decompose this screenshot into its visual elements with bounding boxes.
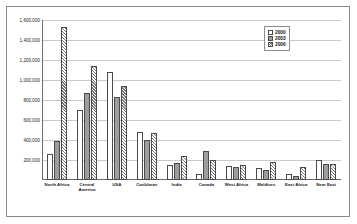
bar-group xyxy=(132,20,162,180)
bar-2003 xyxy=(84,93,90,180)
bar-2000 xyxy=(137,132,143,180)
x-axis-category-label: West Africa xyxy=(221,182,251,192)
bar-2003 xyxy=(54,141,60,180)
x-axis-category-label: Caribbean xyxy=(132,182,162,192)
legend-label-2003: 2003 xyxy=(275,36,286,41)
legend-swatch-2003-icon xyxy=(268,36,273,41)
bar-2000 xyxy=(256,168,262,180)
bar-2006 xyxy=(181,156,187,180)
x-axis-category-labels: North AfricaCentral AmericaUSACaribbeanI… xyxy=(42,182,341,192)
bar-group xyxy=(72,20,102,180)
bar-group xyxy=(192,20,222,180)
bar-2003 xyxy=(174,163,180,181)
bar-2006 xyxy=(121,86,127,180)
bar-2003 xyxy=(263,170,269,180)
x-axis-category-label: Maldives xyxy=(251,182,281,192)
bar-2000 xyxy=(107,72,113,180)
bar-2006 xyxy=(240,165,246,180)
x-axis-category-label: Near East xyxy=(311,182,341,192)
legend-item-2000: 2000 xyxy=(268,30,286,35)
y-axis-tick-label: 1,600,000 xyxy=(20,18,40,23)
bar-groups xyxy=(42,20,341,180)
legend-item-2003: 2003 xyxy=(268,36,286,41)
bar-2003 xyxy=(203,151,209,180)
bar-2000 xyxy=(286,174,292,180)
legend-item-2006: 2006 xyxy=(268,42,286,47)
bar-group xyxy=(42,20,72,180)
bar-2003 xyxy=(233,167,239,181)
legend-swatch-2006-icon xyxy=(268,42,273,47)
y-axis-tick-labels: 1,600,0001,400,0001,200,0001,000,000800,… xyxy=(0,20,40,180)
bar-group xyxy=(102,20,132,180)
x-axis-category-label: USA xyxy=(102,182,132,192)
bar-2006 xyxy=(270,162,276,181)
bar-2006 xyxy=(151,133,157,180)
bar-2003 xyxy=(144,140,150,180)
y-axis-tick-label: 800,000 xyxy=(23,98,40,103)
y-axis-tick-label: 1,400,000 xyxy=(20,38,40,43)
x-axis-category-label: India xyxy=(162,182,192,192)
bar-2003 xyxy=(323,164,329,180)
bar-2000 xyxy=(167,165,173,180)
legend-swatch-2000-icon xyxy=(268,30,273,35)
y-axis-tick-label: 1,000,000 xyxy=(20,78,40,83)
bar-2006 xyxy=(91,66,97,180)
bar-2000 xyxy=(47,154,53,180)
bar-2000 xyxy=(196,174,202,180)
bar-2006 xyxy=(61,27,67,180)
x-axis-category-label: East Africa xyxy=(281,182,311,192)
y-axis-tick-label: 400,000 xyxy=(23,138,40,143)
x-axis-category-label: Central America xyxy=(72,182,102,192)
bar-2000 xyxy=(77,110,83,180)
bar-2006 xyxy=(210,160,216,180)
bar-chart-figure: 1,600,0001,400,0001,200,0001,000,000800,… xyxy=(0,0,357,224)
bar-2006 xyxy=(330,164,336,180)
y-axis-tick-label: 1,200,000 xyxy=(20,58,40,63)
bar-2006 xyxy=(300,167,306,180)
chart-legend: 2000 2003 2006 xyxy=(264,26,290,51)
bar-2003 xyxy=(114,97,120,180)
legend-label-2000: 2000 xyxy=(275,30,286,35)
x-axis-category-label: Canada xyxy=(192,182,222,192)
bar-group xyxy=(221,20,251,180)
bar-2000 xyxy=(316,160,322,180)
bar-2003 xyxy=(293,176,299,180)
bar-group xyxy=(162,20,192,180)
y-axis-tick-label: 600,000 xyxy=(23,118,40,123)
bar-group xyxy=(311,20,341,180)
bar-2000 xyxy=(226,166,232,180)
x-axis-category-label: North Africa xyxy=(42,182,72,192)
y-axis-tick-label: 200,000 xyxy=(23,158,40,163)
legend-label-2006: 2006 xyxy=(275,42,286,47)
